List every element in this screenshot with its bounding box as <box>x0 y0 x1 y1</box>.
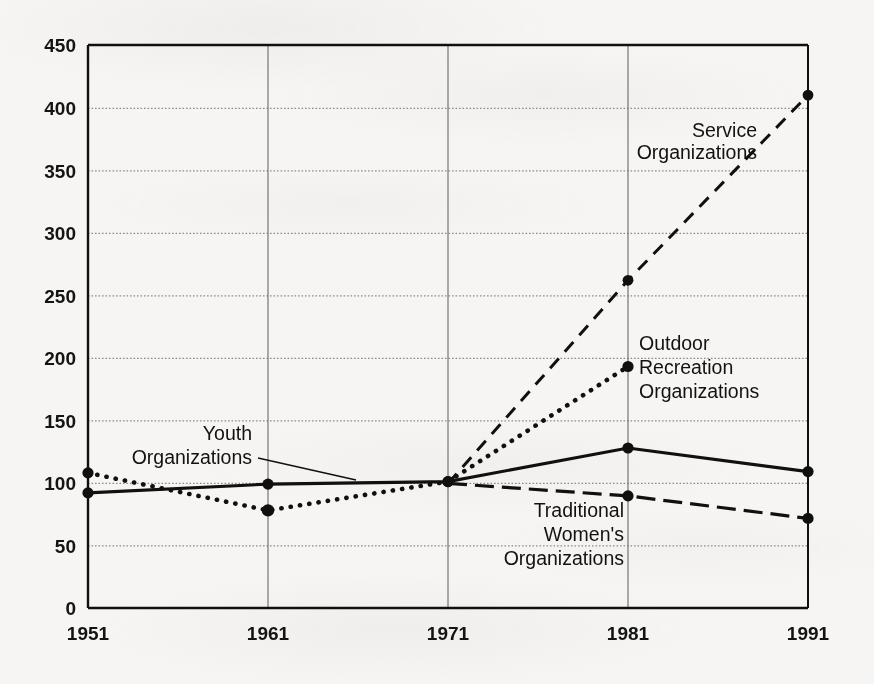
x-tick-1991: 1991 <box>787 623 830 644</box>
data-point-traditional-1981 <box>622 490 633 501</box>
data-point-youth-1961 <box>262 479 273 490</box>
traditional-womens-organizations-label-line-1: Traditional <box>534 499 624 521</box>
traditional-womens-organizations-label-line-2: Women's <box>544 523 625 545</box>
y-tick-50: 50 <box>55 536 76 557</box>
youth-organizations-label-line-2: Organizations <box>132 446 253 468</box>
youth-organizations-label-line-1: Youth <box>203 422 252 444</box>
series-traditional-womens-organizations <box>448 483 814 524</box>
series-service-organizations <box>448 90 813 484</box>
service-organizations-label-line-2: Organizations <box>637 141 758 163</box>
y-tick-350: 350 <box>44 161 76 182</box>
youth-organizations-leader-line <box>258 458 356 480</box>
y-tick-300: 300 <box>44 223 76 244</box>
x-tick-1971: 1971 <box>427 623 470 644</box>
y-tick-200: 200 <box>44 348 76 369</box>
data-point-service-1991 <box>803 90 814 101</box>
y-tick-150: 150 <box>44 411 76 432</box>
chart-page: 450 400 350 300 250 200 150 100 50 0 195… <box>0 0 874 684</box>
y-tick-0: 0 <box>65 598 76 619</box>
x-tick-1961: 1961 <box>247 623 290 644</box>
data-point-outdoor-1981 <box>622 361 633 372</box>
line-chart: 450 400 350 300 250 200 150 100 50 0 195… <box>0 0 874 684</box>
annotation-outdoor-recreation-organizations: Outdoor Recreation Organizations <box>639 332 760 402</box>
annotation-traditional-womens-organizations: Traditional Women's Organizations <box>504 499 625 569</box>
outdoor-recreation-organizations-label-line-1: Outdoor <box>639 332 710 354</box>
service-organizations-label-line-1: Service <box>692 119 757 141</box>
x-tick-1981: 1981 <box>607 623 650 644</box>
data-point-youth-1991 <box>802 466 813 477</box>
y-tick-400: 400 <box>44 98 76 119</box>
x-tick-1951: 1951 <box>67 623 110 644</box>
annotation-service-organizations: Service Organizations <box>637 119 758 163</box>
outdoor-recreation-organizations-label-line-3: Organizations <box>639 380 760 402</box>
y-tick-100: 100 <box>44 473 76 494</box>
outdoor-recreation-organizations-label-line-2: Recreation <box>639 356 733 378</box>
data-point-youth-1971 <box>442 476 453 487</box>
y-tick-250: 250 <box>44 286 76 307</box>
x-axis-tick-labels: 1951 1961 1971 1981 1991 <box>67 623 830 644</box>
data-point-service-1981 <box>623 275 634 286</box>
data-point-outdoor-1961 <box>262 504 274 516</box>
traditional-womens-organizations-label-line-3: Organizations <box>504 547 625 569</box>
data-point-youth-1981 <box>622 442 633 453</box>
data-point-youth-1951 <box>82 487 93 498</box>
data-point-traditional-1991 <box>802 513 813 524</box>
series-outdoor-recreation-organizations <box>82 361 633 517</box>
annotation-youth-organizations: Youth Organizations <box>132 422 356 480</box>
y-axis-tick-labels: 450 400 350 300 250 200 150 100 50 0 <box>44 35 76 619</box>
y-tick-450: 450 <box>44 35 76 56</box>
data-point-outdoor-1951 <box>82 467 93 478</box>
